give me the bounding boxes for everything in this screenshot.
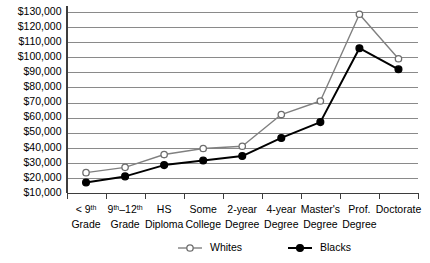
x-axis-tick-label: College (185, 218, 221, 230)
x-axis-tick-label: Doctorate (376, 203, 422, 215)
legend-label-blacks: Blacks (320, 241, 351, 253)
y-axis-tick-label: $40,000 (24, 141, 62, 153)
x-axis-tick-labels: < 9thGrade9th–12thGradeHSDiplomaSomeColl… (71, 203, 421, 230)
x-axis-tick-label: Prof. (348, 203, 370, 215)
chart-canvas: $130,000$120,000$110,000$100,000$90,000$… (0, 0, 430, 263)
data-point-whites (83, 169, 89, 175)
axes (67, 6, 419, 194)
data-point-blacks (161, 162, 168, 169)
data-point-blacks (317, 119, 324, 126)
x-axis-tick-label: Degree (225, 218, 260, 230)
gridlines (67, 13, 419, 194)
legend-label-whites: Whites (210, 241, 242, 253)
x-axis-tick-label: Master's (301, 203, 340, 215)
x-axis-tick-label: Degree (303, 218, 338, 230)
data-point-whites (239, 143, 245, 149)
legend-marker-open-circle-icon (187, 245, 193, 251)
x-axis-tick-label: Degree (264, 218, 299, 230)
x-axis-tick-label: Grade (110, 218, 139, 230)
y-axis-tick-label: $130,000 (18, 5, 62, 17)
x-axis-tick-label: < 9th (76, 203, 97, 215)
y-axis-tick-label: $110,000 (18, 35, 61, 47)
data-point-whites (395, 56, 401, 62)
y-axis-tick-label: $20,000 (24, 171, 62, 183)
data-point-blacks (200, 157, 207, 164)
data-point-whites (278, 111, 284, 117)
data-point-blacks (278, 135, 285, 142)
data-point-whites (356, 11, 362, 17)
data-point-blacks (83, 179, 90, 186)
data-point-whites (317, 98, 323, 104)
y-axis-tick-label: $90,000 (24, 65, 62, 77)
series-line-blacks (86, 48, 398, 182)
data-point-whites (122, 164, 128, 170)
income-by-education-chart: $130,000$120,000$110,000$100,000$90,000$… (0, 0, 430, 263)
legend-marker-filled-circle-icon (297, 245, 304, 252)
data-series (83, 11, 402, 186)
y-axis-tick-labels: $130,000$120,000$110,000$100,000$90,000$… (18, 5, 62, 198)
y-axis-tick-label: $120,000 (18, 20, 62, 32)
x-axis-tick-label: 4-year (266, 203, 296, 215)
y-axis-tick-label: $30,000 (24, 156, 62, 168)
y-axis-tick-label: $50,000 (24, 125, 62, 137)
chart-legend: WhitesBlacks (178, 241, 351, 253)
data-point-blacks (356, 45, 363, 52)
x-axis-tick-label: Some (189, 203, 217, 215)
y-axis-tick-label: $60,000 (24, 110, 62, 122)
data-point-whites (161, 151, 167, 157)
y-axis-tick-label: $70,000 (24, 95, 62, 107)
x-axis-tick-label: Grade (71, 218, 100, 230)
x-axis-tick-label: 9th–12th (108, 203, 143, 215)
data-point-blacks (395, 66, 402, 73)
x-axis-tick-label: Diploma (145, 218, 184, 230)
x-axis-tick-label: HS (157, 203, 172, 215)
y-axis-tick-label: $100,000 (18, 50, 62, 62)
x-axis-tick-label: Degree (342, 218, 377, 230)
y-axis-tick-label: $10,000 (24, 186, 62, 198)
y-axis-tick-label: $80,000 (24, 80, 62, 92)
data-point-whites (200, 145, 206, 151)
data-point-blacks (239, 153, 246, 160)
x-axis-tick-label: 2-year (227, 203, 257, 215)
data-point-blacks (122, 173, 129, 180)
